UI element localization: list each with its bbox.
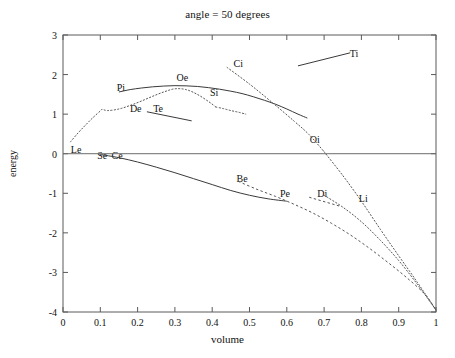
data-series xyxy=(216,107,246,114)
data-series xyxy=(298,53,350,66)
plot-canvas xyxy=(0,0,455,358)
plot-frame xyxy=(63,35,436,312)
data-series xyxy=(324,195,436,310)
chart-figure: angle = 50 degrees volume energy 00.10.2… xyxy=(0,0,455,358)
data-curves xyxy=(70,53,436,310)
data-series xyxy=(119,86,307,118)
data-series xyxy=(70,89,215,142)
data-series xyxy=(227,67,324,151)
data-series xyxy=(147,112,192,121)
data-series xyxy=(238,181,436,310)
data-series xyxy=(100,155,286,202)
data-series xyxy=(309,197,339,206)
axis-tickmarks xyxy=(63,35,436,312)
